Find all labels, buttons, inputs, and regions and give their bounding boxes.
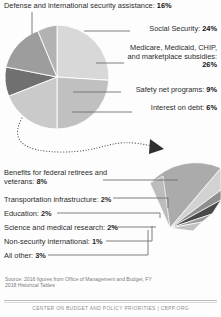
label-interest-on-debt: Interest on debt: 6% bbox=[151, 104, 217, 113]
footer-attribution: CENTER ON BUDGET AND POLICY PRIORITIES |… bbox=[0, 306, 221, 311]
detail-fan-chart bbox=[150, 163, 221, 231]
label-science-medical-research: Science and medical research: 2% bbox=[4, 223, 118, 232]
source-note: Source: 2016 figures from Office of Mana… bbox=[5, 276, 155, 289]
label-education: Education: 2% bbox=[4, 209, 52, 218]
slice-medicare bbox=[57, 25, 109, 80]
slice-social-security bbox=[57, 77, 109, 129]
main-pie-slices bbox=[5, 25, 109, 129]
footer-divider-secondary bbox=[4, 302, 217, 303]
arrowhead-icon bbox=[149, 139, 164, 154]
infographic-figure: Defense and international security assis… bbox=[0, 0, 221, 317]
label-transportation: Transportation infrastructure: 2% bbox=[4, 195, 111, 204]
leader-education bbox=[57, 213, 160, 218]
footer-divider bbox=[4, 300, 217, 301]
label-benefits-retirees-veterans: Benefits for federal retirees and vetera… bbox=[4, 168, 108, 186]
label-defense: Defense and international security assis… bbox=[4, 2, 172, 11]
label-safety-net: Safety net programs: 9% bbox=[136, 86, 217, 95]
label-social-security: Social Security: 24% bbox=[149, 25, 217, 34]
label-all-other: All other: 3% bbox=[4, 251, 46, 260]
label-non-security-international: Non-security international: 1% bbox=[4, 237, 103, 246]
label-medicare: Medicare, Medicaid, CHIP, and marketplac… bbox=[121, 44, 217, 70]
